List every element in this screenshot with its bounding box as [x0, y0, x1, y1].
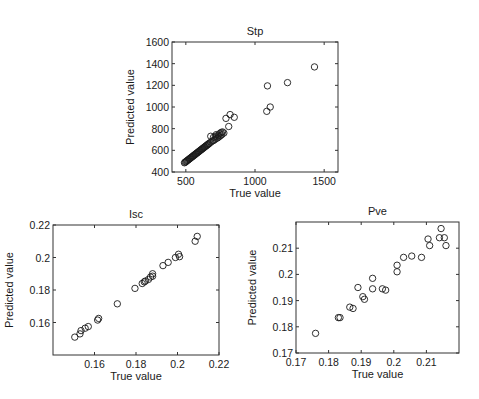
isc-plot-title: Isc	[129, 208, 144, 220]
stp-data-point	[226, 123, 232, 129]
isc-scatter-plot: 0.160.180.20.220.160.180.20.22IscTrue va…	[3, 208, 229, 382]
stp-x-tick-label: 1000	[243, 175, 267, 187]
stp-data-point	[264, 108, 270, 114]
stp-y-tick-label: 1000	[146, 101, 170, 113]
stp-plot-title: Stp	[247, 25, 264, 37]
stp-y-tick-label: 1600	[146, 36, 170, 48]
stp-data-point	[267, 104, 273, 110]
pve-data-point	[441, 235, 447, 241]
stp-x-tick-label: 500	[177, 175, 195, 187]
stp-x-tick-label: 1500	[312, 175, 336, 187]
pve-data-point	[426, 242, 432, 248]
stp-scatter-plot: 500100015004006008001000120014001600StpT…	[124, 25, 338, 199]
stp-data-point	[223, 115, 229, 121]
pve-x-tick-label: 0.2	[386, 356, 401, 368]
pve-data-point	[425, 236, 431, 242]
stp-y-tick-label: 600	[151, 144, 169, 156]
isc-y-tick-label: 0.22	[30, 219, 51, 231]
pve-data-point	[369, 275, 375, 281]
pve-data-point	[312, 330, 318, 336]
pve-data-point	[443, 242, 449, 248]
isc-data-point	[132, 285, 138, 291]
isc-x-tick-label: 0.2	[170, 358, 185, 370]
isc-data-point	[165, 259, 171, 265]
pve-y-tick-label: 0.2	[278, 268, 293, 280]
isc-data-point	[176, 253, 182, 259]
pve-data-point	[355, 284, 361, 290]
isc-data-point	[114, 301, 120, 307]
stp-data-point	[264, 83, 270, 89]
pve-y-tick-label: 0.18	[273, 321, 294, 333]
stp-y-tick-label: 1200	[146, 79, 170, 91]
stp-y-tick-label: 400	[151, 166, 169, 178]
stp-x-axis-label: True value	[229, 187, 281, 199]
pve-data-point	[394, 262, 400, 268]
isc-x-tick-label: 0.22	[209, 358, 230, 370]
pve-data-point	[409, 253, 415, 259]
pve-axes-frame	[296, 222, 459, 353]
pve-x-tick-label: 0.18	[318, 356, 339, 368]
stp-data-point	[284, 79, 290, 85]
stp-y-axis-label: Predicted value	[124, 69, 136, 145]
stp-data-point	[311, 64, 317, 70]
pve-y-tick-label: 0.21	[273, 242, 294, 254]
pve-y-axis-label: Predicted value	[246, 250, 258, 326]
isc-x-tick-label: 0.18	[126, 358, 147, 370]
isc-y-axis-label: Predicted value	[3, 252, 15, 328]
pve-x-axis-label: True value	[352, 368, 404, 380]
pve-data-point	[369, 286, 375, 292]
isc-y-tick-label: 0.2	[35, 252, 50, 264]
isc-x-tick-label: 0.16	[84, 358, 105, 370]
pve-data-point	[394, 269, 400, 275]
pve-data-point	[438, 225, 444, 231]
isc-y-tick-label: 0.16	[30, 317, 51, 329]
pve-plot-title: Pve	[368, 205, 387, 217]
isc-y-tick-label: 0.18	[30, 284, 51, 296]
stp-y-tick-label: 1400	[146, 58, 170, 70]
isc-x-axis-label: True value	[110, 370, 162, 382]
pve-scatter-plot: 0.170.180.190.20.210.170.180.190.20.21Pv…	[246, 205, 459, 380]
pve-data-point	[418, 254, 424, 260]
pve-x-tick-label: 0.21	[416, 356, 437, 368]
pve-y-tick-label: 0.17	[273, 347, 294, 359]
pve-x-tick-label: 0.19	[351, 356, 372, 368]
pve-data-point	[400, 254, 406, 260]
stp-y-tick-label: 800	[151, 123, 169, 135]
pve-y-tick-label: 0.19	[273, 295, 294, 307]
isc-data-point	[95, 315, 101, 321]
figure-canvas: 500100015004006008001000120014001600StpT…	[0, 0, 479, 399]
